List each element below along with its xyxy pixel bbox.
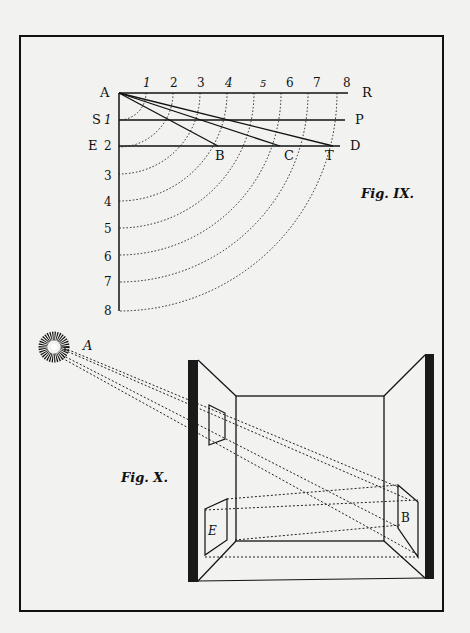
left-number: 4 [104, 195, 112, 209]
left-number: 3 [104, 169, 112, 183]
left-number: 6 [104, 250, 112, 264]
top-number: 7 [313, 76, 321, 90]
sun-icon [43, 336, 65, 358]
top-number: 1 [143, 76, 151, 90]
left-wall-dark [188, 360, 198, 582]
left-number: 1 [104, 113, 112, 127]
dotted-arcs [119, 93, 337, 311]
label-sun-A: A [82, 338, 92, 353]
label-S: S [92, 112, 101, 127]
fig9-caption: Fig. IX. [360, 186, 414, 201]
top-number: 4 [224, 76, 233, 90]
label-T: T [325, 148, 334, 163]
back-wall [236, 396, 384, 541]
top-number: 5 [260, 78, 266, 89]
top-number: 6 [286, 76, 294, 90]
figure-10: A E B [43, 336, 434, 582]
plate-frame [20, 36, 443, 611]
label-A: A [99, 85, 110, 100]
top-scale: 1 2 3 4 5 6 7 8 [143, 76, 351, 90]
top-number: 2 [170, 76, 178, 90]
left-number: 2 [104, 139, 112, 153]
label-C: C [284, 148, 294, 163]
engraving-plate: 1 2 3 4 5 6 7 8 1 2 3 4 5 6 7 8 A R S P … [0, 0, 470, 633]
label-E: E [88, 138, 98, 153]
left-number: 5 [104, 222, 112, 236]
top-number: 8 [343, 76, 351, 90]
label-B: B [401, 511, 410, 525]
left-number: 7 [104, 275, 112, 289]
label-E: E [207, 524, 217, 538]
top-number: 3 [197, 76, 205, 90]
label-P: P [355, 112, 364, 127]
window [209, 405, 225, 445]
left-number: 8 [104, 304, 112, 318]
fig10-caption: Fig. X. [120, 470, 168, 485]
room-edges [198, 355, 425, 581]
label-B: B [215, 148, 225, 163]
figure-9: 1 2 3 4 5 6 7 8 1 2 3 4 5 6 7 8 A R S P … [88, 76, 414, 318]
right-wall-dark [425, 354, 434, 579]
label-R: R [362, 85, 373, 100]
left-scale: 1 2 3 4 5 6 7 8 [104, 113, 112, 318]
label-D: D [350, 138, 360, 153]
light-rays [62, 348, 418, 557]
